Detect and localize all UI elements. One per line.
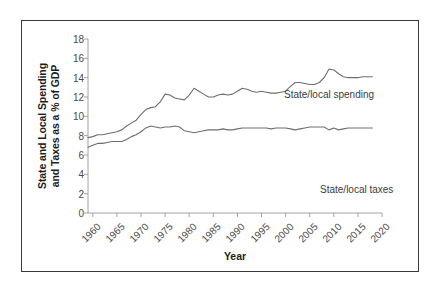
y-tick-12: 12 [62,92,84,103]
y-tick-8: 8 [62,130,84,141]
y-tick-4: 4 [62,169,84,180]
annotation-state-local-taxes: State/local taxes [320,184,393,195]
figure-root: State and Local Spending and Taxes as a … [0,0,444,292]
y-tick-18: 18 [62,34,84,45]
line-series-state-local-taxes [88,126,372,147]
y-tick-6: 6 [62,150,84,161]
plot-area: State/local spending State/local taxes [88,39,382,213]
line-series-state-local-spending [88,69,372,138]
y-tick-2: 2 [62,188,84,199]
y-axis-title-line-1: State and Local Spending [36,63,49,189]
y-tick-14: 14 [62,72,84,83]
y-tick-0: 0 [62,208,84,219]
x-axis-title: Year [88,250,382,262]
y-tick-10: 10 [62,111,84,122]
y-axis-tick-labels: 024681012141618 [58,39,84,213]
annotation-state-local-spending: State/local spending [284,89,374,100]
y-tick-16: 16 [62,53,84,64]
